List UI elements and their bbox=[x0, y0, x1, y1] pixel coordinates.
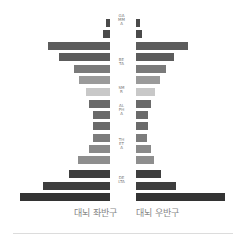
bar-left bbox=[93, 134, 110, 142]
bar-left bbox=[86, 88, 110, 96]
band-label-gamma: GAMMA bbox=[118, 14, 125, 26]
band-label-theta: THETA bbox=[118, 138, 125, 150]
bar-left bbox=[106, 19, 110, 27]
bar-right bbox=[136, 156, 154, 164]
bar-left bbox=[59, 53, 110, 61]
bar-right bbox=[136, 182, 176, 190]
bar-left bbox=[20, 193, 110, 201]
bar-right bbox=[136, 170, 161, 178]
bar-right bbox=[136, 193, 225, 201]
band-label-alpha: ALPHA bbox=[118, 104, 125, 116]
bar-left bbox=[89, 145, 110, 153]
bar-right bbox=[136, 88, 155, 96]
bar-left bbox=[48, 42, 110, 50]
bar-right bbox=[136, 76, 160, 84]
bar-left bbox=[74, 65, 110, 73]
bar-left bbox=[43, 182, 110, 190]
bar-right bbox=[136, 42, 188, 50]
bar-left bbox=[79, 76, 110, 84]
bar-right bbox=[136, 145, 151, 153]
bar-left bbox=[93, 111, 110, 119]
bar-left bbox=[103, 30, 110, 38]
left-hemisphere-label: 대뇌 좌반구 bbox=[74, 206, 117, 219]
bar-right bbox=[136, 30, 142, 38]
bar-right bbox=[136, 122, 148, 130]
band-label-delta: DELTA bbox=[118, 176, 125, 184]
bar-right bbox=[136, 53, 174, 61]
bar-left bbox=[93, 122, 110, 130]
bar-left bbox=[69, 170, 110, 178]
bar-left bbox=[89, 100, 110, 108]
band-label-smr: SMR bbox=[118, 86, 125, 94]
bar-right bbox=[136, 100, 151, 108]
bar-right bbox=[136, 65, 166, 73]
bar-right bbox=[136, 111, 148, 119]
bar-right bbox=[136, 19, 140, 27]
bottom-divider bbox=[13, 233, 233, 234]
band-label-beta: BETA bbox=[118, 58, 125, 66]
bar-right bbox=[136, 134, 147, 142]
right-hemisphere-label: 대뇌 우반구 bbox=[136, 206, 179, 219]
brainwave-butterfly-chart: GAMMA BETA SMR ALPHA THETA DELTA 대뇌 좌반구 … bbox=[0, 0, 243, 234]
bar-left bbox=[78, 156, 110, 164]
